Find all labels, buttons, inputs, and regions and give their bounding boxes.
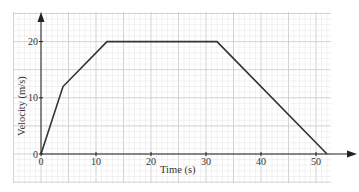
svg-text:40: 40 [256,156,266,167]
svg-text:20: 20 [146,156,156,167]
svg-text:10: 10 [28,92,38,103]
svg-text:0: 0 [39,156,44,167]
svg-text:0: 0 [33,149,38,160]
grid [13,12,331,183]
svg-text:10: 10 [91,156,101,167]
x-axis-arrow-icon [347,151,357,158]
svg-text:20: 20 [28,36,38,47]
velocity-time-graph: 0102030405001020 Time (s) Velocity (m/s) [0,0,359,192]
svg-text:50: 50 [311,156,321,167]
svg-text:30: 30 [201,156,211,167]
y-axis-label: Velocity (m/s) [16,76,28,136]
tick-labels: 0102030405001020 [28,36,321,167]
x-axis-label: Time (s) [160,164,196,176]
